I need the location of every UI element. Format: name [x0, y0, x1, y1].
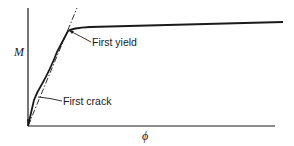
x-axis-label: ϕ [142, 129, 148, 143]
first-yield-leader [70, 31, 91, 42]
first-yield-arrowhead [69, 30, 74, 34]
moment-curvature-diagram: First yield First crack M ϕ [0, 0, 294, 146]
idealized-dashed-line [28, 8, 77, 126]
first-crack-leader [38, 97, 62, 101]
y-axis-label: M [13, 45, 25, 59]
first-crack-label: First crack [63, 95, 112, 107]
first-yield-label: First yield [92, 36, 137, 48]
moment-curvature-curve [28, 22, 283, 126]
